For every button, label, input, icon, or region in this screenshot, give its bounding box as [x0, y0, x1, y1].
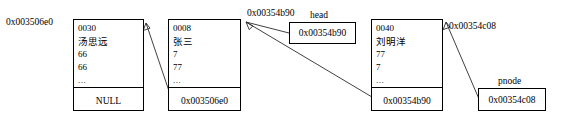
node2-address-label: 0x00354b90: [247, 8, 295, 19]
pnode-variable-name: pnode: [498, 76, 521, 87]
node-2-pointer: 0x003506e0: [169, 88, 240, 113]
pnode-variable-box: 0x00354c08: [478, 88, 546, 111]
node-3-field-2: 77: [376, 48, 442, 61]
node-2-field-4: ...: [173, 74, 240, 87]
node-2-field-3: 77: [173, 61, 240, 74]
node-3-field-4: ...: [376, 74, 442, 87]
node-1-field-0: 0030: [78, 22, 143, 35]
node-2-fields: 0008 张三 7 77 ...: [169, 20, 240, 88]
node-2-field-0: 0008: [173, 22, 240, 35]
edge-head-to-node2: [246, 22, 289, 33]
node-1-field-1: 汤思远: [78, 35, 143, 48]
node-box-2: 0008 张三 7 77 ... 0x003506e0: [168, 19, 241, 111]
diagram-canvas: 0x003506e0 0030 汤思远 66 66 ... NULL 0008 …: [0, 0, 565, 124]
node-3-field-0: 0040: [376, 22, 442, 35]
node-3-field-1: 刘明洋: [376, 35, 442, 48]
node1-address-label: 0x003506e0: [6, 17, 53, 28]
node-1-fields: 0030 汤思远 66 66 ...: [74, 20, 143, 88]
node-2-field-1: 张三: [173, 35, 240, 48]
head-variable-box: 0x00354b90: [289, 22, 356, 44]
edge-pnode-to-node3: [446, 22, 479, 99]
node-1-field-2: 66: [78, 48, 143, 61]
node-1-field-3: 66: [78, 61, 143, 74]
arrowhead-node1: [143, 23, 150, 31]
node-box-3: 0040 刘明洋 77 7 ... 0x00354b90: [371, 19, 443, 111]
head-variable-name: head: [310, 10, 328, 21]
node-3-fields: 0040 刘明洋 77 7 ...: [372, 20, 442, 88]
node-1-pointer: NULL: [74, 88, 143, 113]
arrowhead-node2: [246, 22, 253, 30]
node-1-field-4: ...: [78, 74, 143, 87]
node-3-pointer: 0x00354b90: [372, 88, 442, 113]
node-box-1: 0030 汤思远 66 66 ... NULL: [73, 19, 144, 111]
node3-address-label: 0x00354c08: [449, 21, 496, 32]
node-2-field-2: 7: [173, 48, 240, 61]
node-3-field-3: 7: [376, 61, 442, 74]
